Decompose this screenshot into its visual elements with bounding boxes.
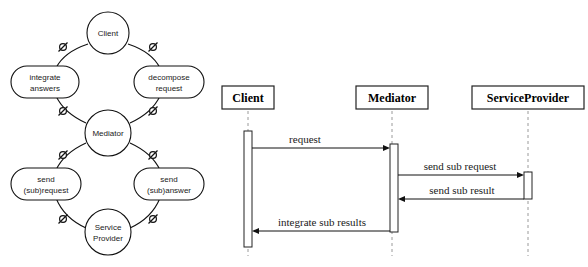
connector-marker-bottom-left: [59, 215, 68, 224]
message-request: request: [252, 133, 390, 151]
message-integrate-sub-results-label: integrate sub results: [278, 216, 366, 228]
activation-client: [244, 131, 252, 247]
node-integrate-answers-label-1: integrate: [29, 73, 61, 82]
node-decompose-request[interactable]: decompose request: [134, 66, 204, 98]
node-decompose-request-label-2: request: [156, 84, 183, 93]
node-mediator[interactable]: Mediator: [85, 110, 131, 156]
node-service-provider-label-2: Provider: [93, 234, 123, 243]
node-client[interactable]: Client: [87, 12, 129, 54]
node-decompose-request-label-1: decompose: [148, 73, 190, 82]
connector-marker-upper-right: [149, 43, 158, 52]
connector-marker-bottom-right: [149, 215, 158, 224]
participant-client-label: Client: [232, 91, 263, 105]
message-integrate-sub-results: integrate sub results: [252, 216, 390, 234]
figure-canvas: Client integrate answers decompose reque…: [0, 0, 588, 267]
node-client-label: Client: [98, 29, 119, 38]
connector-marker-upper-left: [59, 43, 68, 52]
node-send-sub-answer[interactable]: send (sub)answer: [134, 168, 204, 200]
participant-service-provider-label: ServiceProvider: [487, 91, 570, 105]
node-mediator-label: Mediator: [92, 129, 123, 138]
connector-marker-mid-left: [59, 107, 68, 116]
arc-provider-to-sendrequest: [56, 198, 86, 228]
participant-client[interactable]: Client: [222, 86, 274, 109]
node-send-sub-answer-label-1: send: [160, 175, 177, 184]
node-send-sub-request[interactable]: send (sub)request: [11, 168, 81, 200]
node-send-sub-answer-label-2: (sub)answer: [147, 186, 191, 195]
participant-service-provider[interactable]: ServiceProvider: [472, 86, 584, 109]
node-send-sub-request-label-2: (sub)request: [24, 186, 70, 195]
connector-marker-mid-right: [149, 107, 158, 116]
participant-mediator[interactable]: Mediator: [356, 86, 428, 109]
node-integrate-answers[interactable]: integrate answers: [11, 66, 79, 98]
message-send-sub-request: send sub request: [398, 160, 524, 178]
message-send-sub-result: send sub result: [398, 184, 524, 202]
collaboration-diagram: Client integrate answers decompose reque…: [11, 12, 204, 255]
sequence-diagram: Client Mediator ServiceProvider request …: [222, 86, 584, 256]
connector-marker-lower-mid-left: [59, 151, 68, 160]
activation-mediator: [390, 144, 398, 232]
message-request-label: request: [289, 133, 321, 145]
connector-marker-lower-mid-right: [149, 151, 158, 160]
message-send-sub-result-label: send sub result: [429, 184, 494, 196]
activation-service-provider: [524, 172, 532, 199]
message-send-sub-request-label: send sub request: [424, 160, 497, 172]
node-service-provider[interactable]: Service Provider: [85, 209, 131, 255]
node-integrate-answers-label-2: answers: [30, 84, 60, 93]
node-service-provider-label-1: Service: [95, 223, 122, 232]
arc-sendanswer-to-provider: [130, 198, 160, 228]
node-send-sub-request-label-1: send: [37, 175, 54, 184]
participant-mediator-label: Mediator: [368, 91, 417, 105]
